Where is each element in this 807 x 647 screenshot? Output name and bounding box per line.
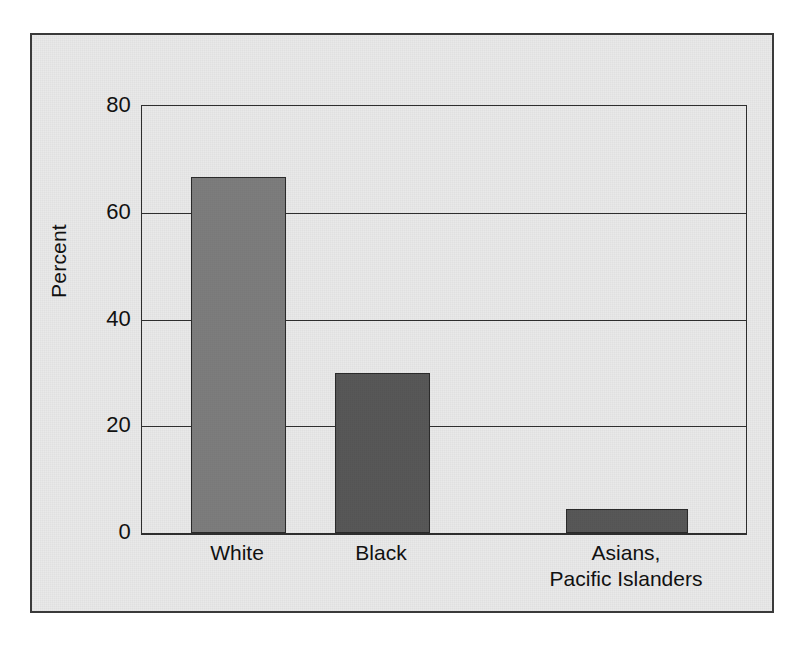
- category-label-asians-line-2: Pacific Islanders: [550, 566, 703, 592]
- y-tick-80: 80: [106, 92, 131, 118]
- category-label-black-line-1: Black: [355, 540, 406, 566]
- y-axis-tick-labels: 0 20 40 60 80: [92, 105, 131, 532]
- category-label-black: Black: [355, 540, 406, 566]
- category-label-asians-pacific-islanders: Asians, Pacific Islanders: [550, 540, 703, 591]
- y-tick-0: 0: [119, 519, 131, 545]
- y-tick-40: 40: [106, 306, 131, 332]
- y-tick-60: 60: [106, 199, 131, 225]
- bar-black[interactable]: [335, 373, 430, 533]
- x-axis-category-labels: White Black Asians, Pacific Islanders: [141, 540, 745, 610]
- chart-figure-frame: Percent 0 20 40 60 80 White Black Asians…: [30, 33, 774, 613]
- category-label-white: White: [210, 540, 264, 566]
- y-tick-20: 20: [106, 412, 131, 438]
- plot-area: [141, 105, 747, 535]
- y-axis-title: Percent: [47, 171, 71, 351]
- bar-asians-pacific-islanders[interactable]: [566, 509, 688, 533]
- category-label-white-line-1: White: [210, 540, 264, 566]
- category-label-asians-line-1: Asians,: [550, 540, 703, 566]
- bar-white[interactable]: [191, 177, 286, 533]
